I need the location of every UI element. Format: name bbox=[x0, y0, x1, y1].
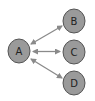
node-a-label: A bbox=[16, 46, 23, 57]
node-c: C bbox=[63, 40, 85, 64]
node-b-label: B bbox=[71, 16, 78, 27]
node-c-label: C bbox=[71, 47, 78, 58]
node-b: B bbox=[63, 9, 85, 33]
edge-a-b bbox=[31, 26, 62, 44]
node-d: D bbox=[63, 71, 85, 95]
edge-a-d bbox=[31, 59, 62, 78]
node-d-label: D bbox=[70, 78, 78, 89]
node-a: A bbox=[8, 39, 30, 63]
hub-diagram: A B C D bbox=[0, 0, 95, 101]
